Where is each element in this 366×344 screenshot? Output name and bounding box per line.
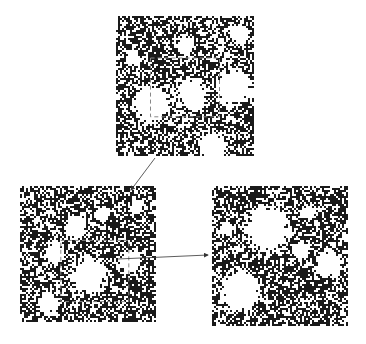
cluster-panel-bottom-right xyxy=(212,186,348,326)
cluster-panel-top xyxy=(116,16,254,156)
cluster-panel-bottom-left xyxy=(20,186,156,322)
